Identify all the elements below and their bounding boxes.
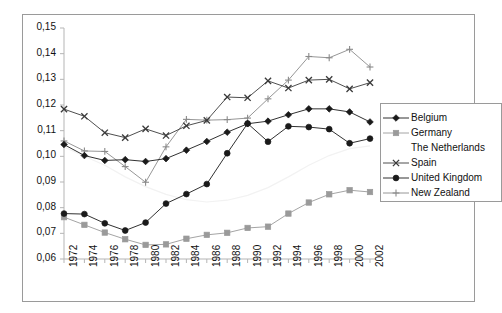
x-tick-label: 1988 [231, 245, 242, 267]
x-tick-label: 1996 [313, 245, 324, 267]
legend-marker-square-icon [381, 126, 411, 140]
legend-label: Belgium [411, 112, 447, 124]
x-tick-label: 1978 [129, 245, 140, 267]
legend-item-new-zealand[interactable]: New Zealand [381, 184, 501, 201]
legend-label: Spain [411, 157, 437, 169]
x-tick-label: 1974 [88, 245, 99, 267]
x-tick-label: 1984 [190, 245, 201, 267]
chart-legend: BelgiumGermanyThe NetherlandsSpainUnited… [380, 103, 502, 202]
legend-label: Germany [411, 127, 452, 139]
x-tick-label: 1990 [252, 245, 263, 267]
x-tick-label: 1986 [211, 245, 222, 267]
x-tick-label: 2002 [374, 245, 385, 267]
x-tick-label: 1980 [150, 245, 161, 267]
chart-frame: 0,060,070,080,090,100,110,120,130,140,15… [22, 14, 475, 302]
series-the-netherlands [64, 146, 370, 202]
x-tick-label: 1994 [292, 245, 303, 267]
y-tick-label: 0,14 [23, 47, 56, 58]
legend-marker-circle-icon [381, 171, 411, 185]
legend-label: United Kingdom [411, 172, 482, 184]
x-tick-label: 1998 [333, 245, 344, 267]
y-tick-label: 0,07 [23, 226, 56, 237]
legend-marker-plus-icon [381, 186, 411, 200]
x-tick-label: 2000 [354, 245, 365, 267]
legend-marker-blank-icon [381, 141, 411, 155]
x-tick-label: 1982 [170, 245, 181, 267]
series-united-kingdom [61, 121, 373, 234]
x-tick-label: 1992 [272, 245, 283, 267]
axis-lines [64, 28, 376, 259]
x-tick-label: 1976 [109, 245, 120, 267]
series-new-zealand [61, 46, 374, 186]
y-tick-label: 0,13 [23, 72, 56, 83]
y-tick-label: 0,11 [23, 124, 56, 135]
y-tick-label: 0,06 [23, 252, 56, 263]
x-tick-label: 1972 [68, 245, 79, 267]
y-tick-label: 0,12 [23, 98, 56, 109]
y-tick-label: 0,15 [23, 21, 56, 32]
y-tick-label: 0,09 [23, 175, 56, 186]
legend-label: The Netherlands [411, 142, 485, 154]
legend-label: New Zealand [411, 187, 470, 199]
series-germany [61, 188, 372, 248]
y-tick-label: 0,10 [23, 149, 56, 160]
legend-marker-diamond-icon [381, 111, 411, 125]
y-tick-label: 0,08 [23, 201, 56, 212]
legend-marker-x-icon [381, 156, 411, 170]
